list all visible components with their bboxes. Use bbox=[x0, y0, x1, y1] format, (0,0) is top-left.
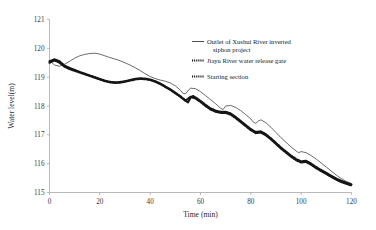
legend-label-starting-section: Starting section bbox=[207, 73, 249, 80]
chart-legend: Outlet of Xushui River inverted siphon p… bbox=[192, 38, 292, 80]
y-tick-labels: 115116117118119120121 bbox=[34, 16, 45, 197]
x-tick-label: 0 bbox=[48, 198, 52, 206]
series-line-starting-section bbox=[50, 60, 352, 185]
chart-axes bbox=[47, 20, 352, 196]
x-tick-label: 100 bbox=[296, 198, 307, 206]
y-tick-label: 120 bbox=[34, 45, 45, 53]
x-tick-label: 20 bbox=[96, 198, 104, 206]
x-tick-labels: 020406080100120 bbox=[48, 198, 358, 206]
y-tick-label: 121 bbox=[34, 16, 45, 24]
y-tick-label: 119 bbox=[34, 74, 45, 82]
chart-figure: 115116117118119120121 020406080100120 Ti… bbox=[0, 0, 376, 230]
series-line-outlet-xushui bbox=[50, 53, 352, 184]
y-tick-label: 118 bbox=[34, 103, 45, 111]
legend-label-outlet-xushui-line1: Outlet of Xushui River inverted bbox=[207, 38, 292, 45]
x-tick-label: 120 bbox=[346, 198, 357, 206]
x-tick-label: 80 bbox=[247, 198, 255, 206]
y-tick-label: 116 bbox=[34, 160, 45, 168]
chart-series-group bbox=[50, 53, 352, 185]
y-axis-title: Water level(m) bbox=[7, 83, 16, 129]
x-axis-title: Time (min) bbox=[183, 210, 218, 219]
x-tick-label: 40 bbox=[147, 198, 155, 206]
y-tick-label: 117 bbox=[34, 131, 45, 139]
chart-plot-svg: 115116117118119120121 020406080100120 Ti… bbox=[0, 0, 376, 230]
legend-label-outlet-xushui-line2: siphon project bbox=[213, 46, 251, 53]
x-tick-label: 60 bbox=[197, 198, 205, 206]
y-tick-label: 115 bbox=[34, 189, 45, 197]
legend-label-jiayu-gate: Jiayu River water release gate bbox=[207, 57, 286, 64]
